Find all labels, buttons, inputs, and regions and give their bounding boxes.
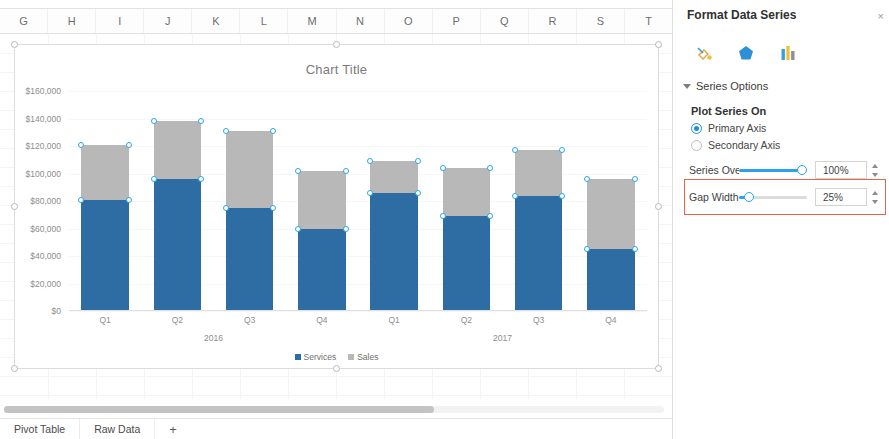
- series-point-handle-right-top[interactable]: [126, 142, 132, 148]
- series-point-handle-left-mid[interactable]: [151, 176, 157, 182]
- chart-handle-mid-left[interactable]: [11, 203, 18, 210]
- column-header-l[interactable]: L: [240, 9, 288, 33]
- gap-width-slider[interactable]: [739, 191, 807, 203]
- series-point-handle-right-mid[interactable]: [126, 197, 132, 203]
- column-header-j[interactable]: J: [144, 9, 192, 33]
- close-icon[interactable]: ×: [878, 10, 884, 22]
- radio-primary-axis-indicator[interactable]: [691, 123, 702, 134]
- series-point-handle-left-top[interactable]: [78, 142, 84, 148]
- bar-segment-services[interactable]: [298, 229, 346, 312]
- gap-width-row[interactable]: Gap Width 25%: [673, 186, 889, 208]
- series-point-handle-right-mid[interactable]: [270, 205, 276, 211]
- column-header-q[interactable]: Q: [481, 9, 529, 33]
- bar-segment-services[interactable]: [154, 179, 202, 311]
- radio-secondary-axis[interactable]: Secondary Axis: [691, 139, 780, 151]
- panel-icon-tabs[interactable]: [673, 38, 889, 68]
- bar-segment-sales[interactable]: [154, 121, 202, 179]
- bar-segment-sales[interactable]: [443, 168, 491, 216]
- column-header-m[interactable]: M: [288, 9, 336, 33]
- stacked-bar[interactable]: [154, 121, 202, 311]
- bar-series-group[interactable]: [69, 91, 647, 311]
- chart-handle-top-right[interactable]: [655, 41, 662, 48]
- series-point-handle-left-top[interactable]: [512, 147, 518, 153]
- column-header-s[interactable]: S: [577, 9, 625, 33]
- series-point-handle-left-top[interactable]: [151, 118, 157, 124]
- chart-handle-bottom-left[interactable]: [11, 365, 18, 372]
- series-point-handle-right-mid[interactable]: [559, 193, 565, 199]
- bar-segment-services[interactable]: [587, 249, 635, 311]
- chart-handle-mid-right[interactable]: [655, 203, 662, 210]
- bar-segment-services[interactable]: [81, 200, 129, 311]
- chart-handle-top-left[interactable]: [11, 41, 18, 48]
- series-point-handle-left-top[interactable]: [223, 128, 229, 134]
- column-header-g[interactable]: G: [0, 9, 48, 33]
- column-header-o[interactable]: O: [385, 9, 433, 33]
- chart-title[interactable]: Chart Title: [15, 62, 658, 77]
- series-point-handle-right-mid[interactable]: [632, 246, 638, 252]
- bar-segment-sales[interactable]: [298, 171, 346, 229]
- legend-item[interactable]: Services: [295, 352, 337, 362]
- stacked-bar[interactable]: [587, 179, 635, 311]
- series-overlap-slider[interactable]: [739, 164, 807, 176]
- series-point-handle-right-top[interactable]: [270, 128, 276, 134]
- series-point-handle-left-mid[interactable]: [223, 205, 229, 211]
- series-point-handle-right-top[interactable]: [632, 176, 638, 182]
- series-point-handle-right-top[interactable]: [343, 168, 349, 174]
- stacked-bar[interactable]: [226, 131, 274, 311]
- series-point-handle-right-top[interactable]: [487, 165, 493, 171]
- bar-segment-services[interactable]: [226, 208, 274, 311]
- legend-item[interactable]: Sales: [348, 352, 378, 362]
- series-point-handle-left-mid[interactable]: [295, 226, 301, 232]
- series-options-section-header[interactable]: Series Options: [683, 80, 768, 92]
- bar-segment-sales[interactable]: [226, 131, 274, 208]
- column-header-n[interactable]: N: [337, 9, 385, 33]
- series-overlap-slider-knob[interactable]: [797, 165, 807, 175]
- series-point-handle-left-top[interactable]: [295, 168, 301, 174]
- series-point-handle-left-mid[interactable]: [440, 213, 446, 219]
- bar-segment-sales[interactable]: [370, 161, 418, 193]
- series-point-handle-right-mid[interactable]: [343, 226, 349, 232]
- stacked-bar[interactable]: [443, 168, 491, 311]
- bar-segment-services[interactable]: [370, 193, 418, 311]
- column-header-h[interactable]: H: [48, 9, 96, 33]
- horizontal-scrollbar[interactable]: [4, 406, 664, 413]
- chart-object[interactable]: Chart Title $160,000$140,000$120,000$100…: [14, 44, 659, 369]
- stepper-up-icon[interactable]: [872, 191, 878, 195]
- series-point-handle-right-mid[interactable]: [415, 190, 421, 196]
- gap-width-stepper[interactable]: [870, 188, 880, 206]
- radio-primary-axis[interactable]: Primary Axis: [691, 122, 766, 134]
- stepper-up-icon[interactable]: [872, 164, 878, 168]
- stacked-bar[interactable]: [81, 145, 129, 311]
- bar-segment-services[interactable]: [443, 216, 491, 311]
- sheet-tab-raw-data[interactable]: Raw Data: [80, 419, 155, 439]
- chart-handle-bottom-center[interactable]: [333, 365, 340, 372]
- bar-segment-sales[interactable]: [515, 150, 563, 195]
- series-point-handle-left-mid[interactable]: [512, 193, 518, 199]
- effects-pentagon-icon[interactable]: [735, 42, 757, 64]
- chart-handle-top-center[interactable]: [333, 41, 340, 48]
- series-overlap-stepper[interactable]: [870, 161, 880, 179]
- column-header-i[interactable]: I: [96, 9, 144, 33]
- gap-width-value[interactable]: 25%: [815, 188, 867, 206]
- bar-segment-sales[interactable]: [587, 179, 635, 249]
- series-overlap-row[interactable]: Series Overl... 100%: [673, 159, 889, 181]
- bar-segment-sales[interactable]: [81, 145, 129, 200]
- gap-width-slider-knob[interactable]: [744, 192, 754, 202]
- series-overlap-value[interactable]: 100%: [815, 161, 867, 179]
- stacked-bar[interactable]: [515, 150, 563, 311]
- series-point-handle-left-mid[interactable]: [78, 197, 84, 203]
- sheet-tab-pivot-table[interactable]: Pivot Table: [0, 419, 80, 439]
- radio-secondary-axis-indicator[interactable]: [691, 140, 702, 151]
- add-sheet-button[interactable]: +: [155, 419, 191, 439]
- series-point-handle-right-top[interactable]: [559, 147, 565, 153]
- series-options-chart-icon[interactable]: [777, 42, 799, 64]
- stepper-down-icon[interactable]: [872, 200, 878, 204]
- chart-plot-area[interactable]: $160,000$140,000$120,000$100,000$80,000$…: [69, 91, 647, 311]
- bar-segment-services[interactable]: [515, 196, 563, 312]
- stacked-bar[interactable]: [370, 161, 418, 311]
- horizontal-scrollbar-thumb[interactable]: [4, 406, 434, 413]
- column-header-t[interactable]: T: [625, 9, 672, 33]
- series-point-handle-right-top[interactable]: [415, 158, 421, 164]
- fill-line-icon[interactable]: [693, 42, 715, 64]
- series-point-handle-right-mid[interactable]: [487, 213, 493, 219]
